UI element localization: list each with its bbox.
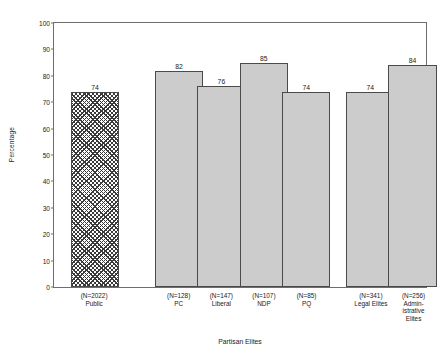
x-axis-tick-labels: (N=2022)Public(N=128)PC(N=147)Liberal(N=… <box>53 290 427 338</box>
category-name-line: NDP <box>252 300 275 308</box>
sample-size-label: (N=2022) <box>81 292 108 300</box>
bar-value-label: 85 <box>260 55 268 62</box>
x-tick-label-legal-elites: (N=341)Legal Elites <box>354 292 387 307</box>
category-name-line: Admin- <box>397 300 431 308</box>
category-name-line: PQ <box>297 300 317 308</box>
sample-size-label: (N=147) <box>210 292 233 300</box>
sample-size-label: (N=85) <box>297 292 317 300</box>
bar-pq: 74 <box>282 92 330 287</box>
x-tick-label-pc: (N=128)PC <box>167 292 190 307</box>
category-name-line: Public <box>81 300 108 308</box>
category-name-label: Legal Elites <box>354 300 387 308</box>
bar-series: 74827685747484 <box>54 23 426 287</box>
category-name-line: Liberal <box>210 300 233 308</box>
category-name-label: Liberal <box>210 300 233 308</box>
category-name-label: Public <box>81 300 108 308</box>
x-tick-label-pq: (N=85)PQ <box>297 292 317 307</box>
bar-value-label: 82 <box>175 63 183 70</box>
y-axis-title-text: Percentage <box>9 126 16 161</box>
category-name-line: Elites <box>397 315 431 323</box>
sample-size-label: (N=341) <box>354 292 387 300</box>
bar-value-label: 74 <box>366 84 374 91</box>
bar-public: 74 <box>71 92 119 287</box>
plot-area: 1009080706050403020100 74827685747484 <box>53 22 427 288</box>
sample-size-label: (N=107) <box>252 292 275 300</box>
bar-value-label: 74 <box>91 84 99 91</box>
y-axis-title: Percentage <box>2 0 22 288</box>
bar-legal-elites: 74 <box>346 92 394 287</box>
category-name-label: PQ <box>297 300 317 308</box>
x-tick-label-public: (N=2022)Public <box>81 292 108 307</box>
bar-pc: 82 <box>155 71 203 287</box>
category-name-label: Admin-istrativeElites <box>397 300 431 323</box>
category-name-label: NDP <box>252 300 275 308</box>
x-tick-label-ndp: (N=107)NDP <box>252 292 275 307</box>
bar-chart-figure: Percentage 1009080706050403020100 748276… <box>0 0 441 357</box>
bar-value-label: 74 <box>302 84 310 91</box>
x-tick-label-administrative-elites: (N=256)Admin-istrativeElites <box>397 292 431 322</box>
sample-size-label: (N=128) <box>167 292 190 300</box>
x-tick-label-liberal: (N=147)Liberal <box>210 292 233 307</box>
sample-size-label: (N=256) <box>397 292 431 300</box>
category-name-label: PC <box>167 300 190 308</box>
category-name-line: PC <box>167 300 190 308</box>
bar-liberal: 76 <box>197 86 245 287</box>
bar-ndp: 85 <box>240 63 288 287</box>
x-axis-title: Partisan Elites <box>53 338 427 345</box>
category-name-line: istrative <box>397 307 431 315</box>
bar-value-label: 76 <box>218 78 226 85</box>
bar-administrative-elites: 84 <box>388 65 436 287</box>
category-name-line: Legal Elites <box>354 300 387 308</box>
bar-value-label: 84 <box>409 57 417 64</box>
